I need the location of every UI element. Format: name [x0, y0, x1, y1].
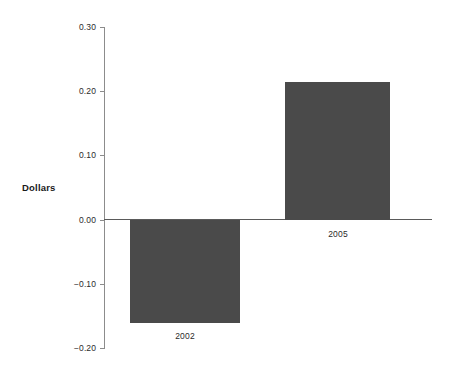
bar-chart: Dollars 0.300.200.100.00−0.10−0.20 20022…	[0, 0, 451, 365]
y-tick-mark	[100, 155, 105, 156]
category-label-2002: 2002	[145, 331, 225, 341]
y-tick-mark	[100, 220, 105, 221]
y-tick-label: 0.10	[52, 150, 96, 160]
bar-2002[interactable]	[130, 220, 240, 323]
bar-2005[interactable]	[285, 82, 390, 220]
y-tick-mark	[100, 91, 105, 92]
y-axis-title: Dollars	[22, 182, 56, 193]
y-axis-line	[104, 27, 105, 349]
y-tick-label: 0.20	[52, 86, 96, 96]
y-tick-mark	[100, 348, 105, 349]
y-tick-label: −0.20	[52, 343, 96, 353]
y-tick-mark	[100, 27, 105, 28]
y-tick-label: −0.10	[52, 279, 96, 289]
category-label-2005: 2005	[298, 229, 378, 239]
y-tick-label: 0.30	[52, 22, 96, 32]
y-tick-mark	[100, 284, 105, 285]
y-tick-label: 0.00	[52, 215, 96, 225]
